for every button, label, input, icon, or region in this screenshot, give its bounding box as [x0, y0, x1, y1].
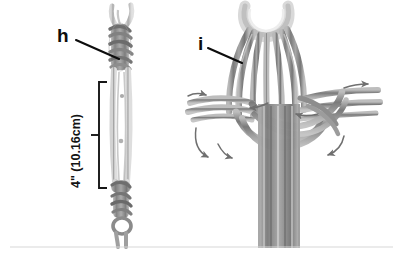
dimension-label-left-loop: 4" (10.16cm) — [70, 114, 83, 188]
panel-h-illustration — [76, 5, 132, 247]
arrow-right-lower — [328, 136, 344, 155]
arrow-right-mid — [296, 114, 318, 116]
arrow-left-lower-b — [218, 144, 232, 158]
cord-top-loop-h — [111, 5, 132, 27]
callout-label-i: i — [198, 34, 203, 53]
panel-i-illustration — [188, 6, 380, 248]
arrow-left-lower-a — [196, 128, 209, 157]
knot-stack-lower-h — [111, 180, 131, 247]
cord-long-loop-h — [113, 70, 130, 188]
dimension-bracket-left — [91, 82, 107, 188]
knot-barrel-upper-h — [109, 23, 132, 71]
arrow-left-upper — [188, 94, 206, 96]
callout-label-h: h — [57, 26, 69, 45]
knot-diagram-figure: h i 4" (10.16cm) — [0, 0, 403, 260]
cord-standing-bundle-i — [258, 104, 300, 248]
